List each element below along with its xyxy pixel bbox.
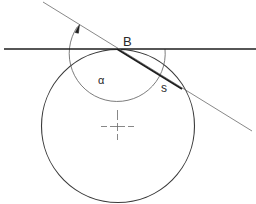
- label-point-b: B: [123, 34, 132, 49]
- angle-arc: [69, 27, 165, 102]
- label-angle-alpha: α: [98, 74, 105, 86]
- geometry-diagram: B s α: [0, 0, 256, 204]
- center-mark-icon: [101, 110, 134, 140]
- secant-line: [43, 2, 252, 131]
- chord-s: [117, 49, 182, 89]
- label-chord-s: s: [161, 81, 167, 95]
- main-circle: [42, 50, 195, 203]
